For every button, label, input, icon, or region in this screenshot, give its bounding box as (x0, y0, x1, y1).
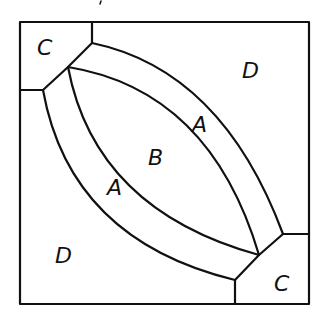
label-arc-lower: A (105, 175, 122, 200)
arc-inner-upper (68, 67, 259, 255)
label-background-top-right: D (242, 58, 259, 83)
arc-inner-lower (68, 67, 259, 255)
stray-mark (100, 1, 101, 4)
label-center: B (148, 145, 163, 170)
corner-piece-bottom-right (235, 234, 309, 304)
label-corner-bottom-right: C (274, 271, 290, 296)
label-corner-top-left: C (37, 35, 53, 60)
corner-piece-top-left (20, 22, 92, 90)
quilt-block-diagram: C C D D A A B (0, 0, 328, 327)
label-arc-upper: A (190, 112, 207, 137)
label-background-bottom-left: D (55, 243, 72, 268)
